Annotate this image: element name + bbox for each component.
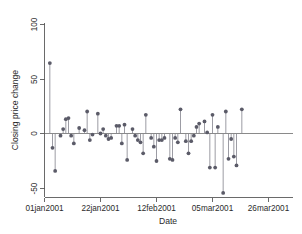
data-point-marker bbox=[224, 110, 228, 114]
data-point-marker bbox=[232, 155, 236, 159]
data-point-marker bbox=[69, 134, 73, 138]
x-tick-label-0: 01jan2001 bbox=[25, 204, 64, 213]
data-point-marker bbox=[77, 126, 81, 130]
data-point-marker bbox=[203, 120, 207, 124]
data-point-marker bbox=[120, 142, 124, 146]
data-point-marker bbox=[163, 136, 167, 140]
x-tick-label-2: 12feb2001 bbox=[137, 204, 176, 213]
data-point-marker bbox=[133, 134, 137, 138]
data-point-marker bbox=[235, 164, 239, 168]
data-point-marker bbox=[205, 131, 209, 135]
data-point-marker bbox=[171, 158, 175, 162]
data-point-marker bbox=[99, 132, 103, 136]
data-point-marker bbox=[173, 136, 177, 140]
data-point-marker bbox=[96, 112, 100, 116]
data-point-marker bbox=[85, 110, 89, 114]
x-tick-labels: 01jan2001 22jan2001 12feb2001 05mar2001 … bbox=[25, 204, 289, 213]
data-point-marker bbox=[240, 107, 244, 111]
data-point-marker bbox=[51, 146, 55, 150]
data-series bbox=[48, 61, 244, 195]
data-point-marker bbox=[67, 116, 71, 120]
data-point-marker bbox=[149, 136, 153, 140]
data-point-marker bbox=[184, 139, 188, 143]
data-point-marker bbox=[61, 127, 65, 131]
y-axis-title: Closing price change bbox=[10, 70, 20, 150]
data-point-marker bbox=[211, 113, 215, 117]
data-point-marker bbox=[83, 128, 87, 132]
data-point-marker bbox=[141, 151, 145, 155]
data-point-marker bbox=[131, 127, 135, 131]
data-point-marker bbox=[229, 137, 233, 141]
y-tick-label-minus50: -50 bbox=[30, 182, 39, 194]
data-point-marker bbox=[179, 107, 183, 111]
data-point-marker bbox=[48, 61, 52, 65]
data-point-marker bbox=[189, 139, 193, 143]
y-tick-marks bbox=[40, 25, 45, 189]
data-point-marker bbox=[53, 169, 57, 173]
data-point-marker bbox=[192, 134, 196, 138]
x-tick-marks bbox=[45, 198, 269, 203]
data-point-marker bbox=[117, 124, 121, 128]
y-tick-labels: 100 50 0 -50 bbox=[30, 17, 39, 194]
data-point-marker bbox=[221, 191, 225, 195]
data-point-marker bbox=[187, 151, 191, 155]
data-point-marker bbox=[101, 127, 105, 131]
data-point-marker bbox=[155, 159, 159, 163]
spike-plot: 100 50 0 -50 Closing price change 01jan2… bbox=[0, 0, 302, 234]
data-point-marker bbox=[123, 123, 127, 127]
data-point-marker bbox=[197, 122, 201, 126]
x-tick-label-1: 22jan2001 bbox=[81, 204, 120, 213]
data-point-marker bbox=[208, 166, 212, 170]
data-point-marker bbox=[152, 145, 156, 149]
data-point-marker bbox=[125, 158, 129, 162]
data-point-marker bbox=[104, 134, 108, 138]
data-point-marker bbox=[227, 157, 231, 161]
data-point-marker bbox=[139, 140, 143, 144]
data-point-marker bbox=[195, 125, 199, 129]
data-point-marker bbox=[216, 125, 220, 129]
y-tick-label-100: 100 bbox=[30, 17, 39, 31]
data-point-marker bbox=[88, 138, 92, 142]
data-point-marker bbox=[144, 113, 148, 117]
data-point-marker bbox=[176, 140, 180, 144]
chart-figure: 100 50 0 -50 Closing price change 01jan2… bbox=[0, 0, 302, 234]
x-tick-label-4: 26mar2001 bbox=[248, 204, 290, 213]
y-tick-label-0: 0 bbox=[30, 131, 39, 136]
data-point-marker bbox=[91, 133, 95, 137]
y-tick-label-50: 50 bbox=[30, 75, 39, 85]
x-axis-title: Date bbox=[159, 216, 177, 226]
data-point-marker bbox=[59, 134, 63, 138]
data-point-marker bbox=[109, 136, 113, 140]
data-point-marker bbox=[213, 166, 217, 170]
data-point-marker bbox=[72, 142, 76, 146]
x-tick-label-3: 05mar2001 bbox=[192, 204, 234, 213]
